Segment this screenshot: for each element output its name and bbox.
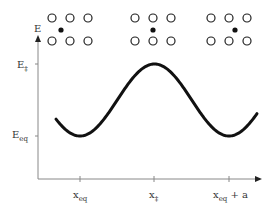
y-tick-label-eq: Eeq [12, 129, 28, 143]
lattice-site [207, 14, 215, 22]
x-axis-arrow [255, 176, 262, 182]
x-tick-label-eq: xeq [73, 189, 88, 203]
y-axis-label: E [34, 23, 41, 34]
lattice-site [167, 14, 175, 22]
lattice-inset-3 [207, 14, 251, 45]
hopping-atom [150, 27, 155, 32]
x-tick-label-eq-plus-a: xeq + a [213, 189, 248, 203]
hopping-atom [58, 27, 63, 32]
y-tick-label-barrier: E‡ [17, 59, 28, 73]
lattice-insets [48, 14, 251, 45]
lattice-site [243, 14, 251, 22]
energy-curve [56, 64, 257, 136]
lattice-site [225, 37, 233, 45]
y-axis-arrow [35, 35, 41, 42]
lattice-site [243, 37, 251, 45]
lattice-site [167, 37, 175, 45]
diagram: E E‡ Eeq xeq x‡ xeq + a [0, 0, 270, 212]
lattice-site [149, 37, 157, 45]
lattice-inset-1 [48, 14, 92, 45]
lattice-site [48, 14, 56, 22]
x-tick-label-barrier: x‡ [149, 189, 159, 203]
lattice-inset-2 [131, 14, 175, 45]
lattice-site [131, 14, 139, 22]
lattice-site [84, 37, 92, 45]
lattice-site [225, 14, 233, 22]
lattice-site [131, 37, 139, 45]
lattice-site [66, 14, 74, 22]
lattice-site [84, 14, 92, 22]
lattice-site [207, 37, 215, 45]
lattice-site [66, 37, 74, 45]
hopping-atom [232, 27, 237, 32]
lattice-site [149, 14, 157, 22]
lattice-site [48, 37, 56, 45]
